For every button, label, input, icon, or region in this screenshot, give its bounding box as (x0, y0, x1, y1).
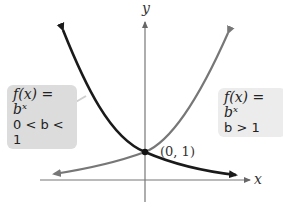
point-label: (0, 1) (160, 144, 195, 159)
decreasing-function-condition: 0 < b < 1 (13, 117, 71, 147)
increasing-function-formula: f(x) = bˣ (224, 90, 280, 120)
y-axis-label: y (142, 0, 150, 16)
decreasing-function-label: f(x) = bˣ 0 < b < 1 (7, 85, 77, 149)
x-axis-label: x (254, 171, 262, 187)
intersection-point (142, 149, 148, 155)
decreasing-curve (63, 30, 236, 175)
decreasing-function-formula: f(x) = bˣ (13, 87, 71, 117)
increasing-function-label: f(x) = bˣ b > 1 (218, 88, 283, 137)
increasing-curve (54, 33, 228, 174)
increasing-function-condition: b > 1 (224, 120, 280, 135)
